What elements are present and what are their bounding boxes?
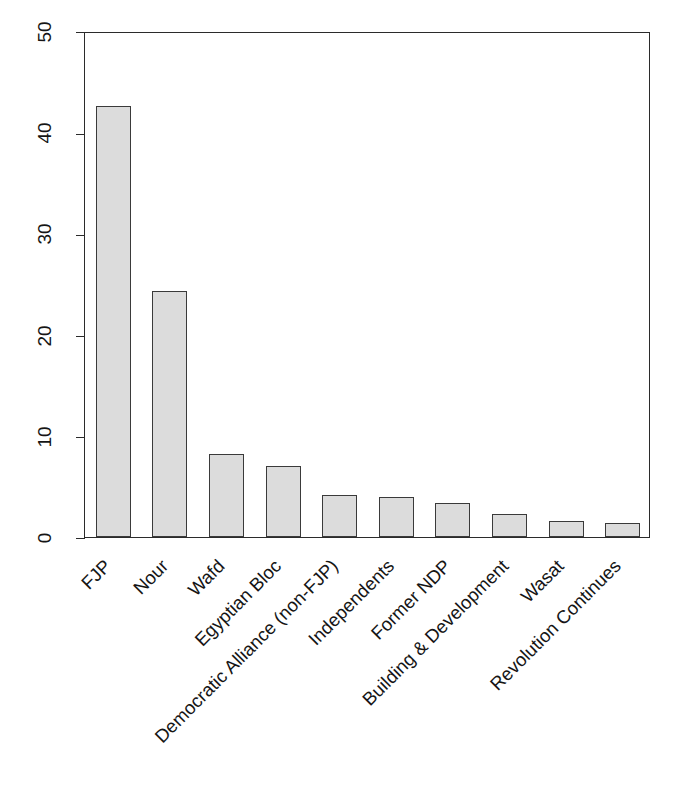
bar [152,291,187,537]
bar-chart-figure: Seats in Parliament (%) 01020304050 FJPN… [0,0,673,792]
x-axis-tick-label: FJP [77,555,116,594]
y-axis-tick-label: 40 [34,103,56,163]
y-axis-tick [76,538,85,539]
bar [549,521,584,537]
y-axis-tick [76,336,85,337]
bar [209,454,244,537]
x-axis-tick-label: Wasat [516,555,568,607]
y-axis-tick-label: 20 [34,306,56,366]
x-axis-tick-label: Nour [129,555,173,599]
bar [492,514,527,537]
y-axis-tick [76,32,85,33]
y-axis-tick-label: 30 [34,204,56,264]
bar [322,495,357,538]
bar [435,503,470,537]
plot-area [84,32,650,538]
y-axis-tick [76,134,85,135]
y-axis-tick-label: 0 [34,508,56,568]
bar [605,523,640,537]
y-axis-tick [76,437,85,438]
y-axis-tick-label: 50 [34,2,56,62]
y-axis-tick [76,235,85,236]
bar [266,466,301,537]
bar [96,106,131,537]
y-axis-tick-label: 10 [34,407,56,467]
bar [379,497,414,537]
x-axis-tick-label: Wafd [183,555,229,601]
